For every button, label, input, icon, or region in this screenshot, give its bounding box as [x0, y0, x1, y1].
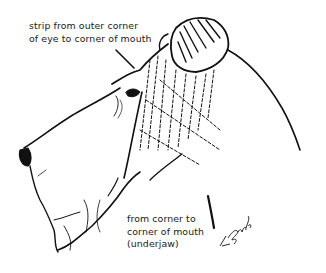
annotation-eye-to-mouth: strip from outer corner of eye to corner…	[29, 20, 152, 45]
annotation-line: strip from outer corner	[29, 20, 152, 33]
cheek-hatching	[140, 56, 220, 165]
illustration-canvas: strip from outer corner of eye to corner…	[0, 0, 326, 273]
neck-back-line	[228, 50, 300, 150]
nose-bridge-line	[24, 88, 120, 148]
eye-mark	[126, 89, 140, 97]
annotation-line: from corner to	[127, 213, 204, 226]
neck-mark	[208, 196, 214, 228]
annotation-line: (underjaw)	[127, 238, 204, 251]
ear-hatching	[178, 20, 220, 62]
annotation-underjaw: from corner to corner of mouth (underjaw…	[127, 213, 204, 251]
muzzle-line	[30, 166, 58, 252]
nose	[19, 148, 31, 166]
annotation-line: corner of mouth	[127, 226, 204, 239]
annotation-arrow	[116, 50, 134, 68]
artist-signature	[220, 216, 251, 246]
eye-mouth-strip-line	[124, 92, 142, 178]
annotation-line: of eye to corner of mouth	[29, 33, 152, 46]
